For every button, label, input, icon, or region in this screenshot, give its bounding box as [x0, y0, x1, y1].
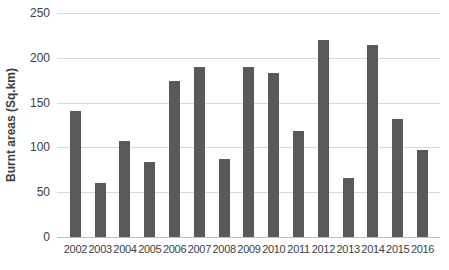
x-tick-label-2005: 2005: [137, 242, 162, 256]
x-tick-label-2003: 2003: [88, 242, 113, 256]
y-tick-label-250: 250: [0, 6, 50, 20]
y-tick-label-0: 0: [0, 230, 50, 244]
bar-slot-2012: [311, 13, 336, 237]
bar-2007: [194, 67, 205, 237]
x-tick-label-2014: 2014: [361, 242, 386, 256]
bar-2003: [95, 183, 106, 237]
bar-slot-2006: [162, 13, 187, 237]
bar-slot-2008: [212, 13, 237, 237]
bar-2005: [144, 162, 155, 237]
plot-area: [57, 13, 440, 237]
x-tick-label-2012: 2012: [311, 242, 336, 256]
bar-slot-2013: [336, 13, 361, 237]
bar-slot-2010: [261, 13, 286, 237]
bar-2008: [219, 159, 230, 237]
bar-2006: [169, 81, 180, 237]
bar-2010: [268, 73, 279, 237]
y-tick-label-100: 100: [0, 140, 50, 154]
bar-2014: [367, 45, 378, 237]
bar-slot-2003: [88, 13, 113, 237]
bar-2002: [70, 111, 81, 237]
x-tick-label-2015: 2015: [385, 242, 410, 256]
x-tick-label-2016: 2016: [410, 242, 435, 256]
bar-slot-2014: [361, 13, 386, 237]
y-axis-tick-labels: 050100150200250: [0, 0, 50, 270]
bar-slot-2004: [113, 13, 138, 237]
bar-2009: [243, 67, 254, 237]
x-axis-tick-labels: 2002200320042005200620072008200920102011…: [63, 242, 435, 256]
x-tick-label-2004: 2004: [113, 242, 138, 256]
bar-2004: [119, 141, 130, 237]
x-tick-label-2013: 2013: [336, 242, 361, 256]
bars-container: [63, 13, 435, 237]
x-tick-label-2011: 2011: [286, 242, 311, 256]
bar-2016: [417, 150, 428, 237]
x-tick-label-2006: 2006: [162, 242, 187, 256]
bar-slot-2005: [137, 13, 162, 237]
bar-slot-2011: [286, 13, 311, 237]
x-tick-label-2009: 2009: [237, 242, 262, 256]
x-tick-label-2008: 2008: [212, 242, 237, 256]
y-tick-label-150: 150: [0, 96, 50, 110]
bar-slot-2007: [187, 13, 212, 237]
x-axis-line: [57, 237, 440, 238]
bar-slot-2016: [410, 13, 435, 237]
bar-2015: [392, 119, 403, 237]
x-tick-label-2010: 2010: [261, 242, 286, 256]
x-tick-label-2002: 2002: [63, 242, 88, 256]
bar-2012: [318, 40, 329, 237]
x-tick-label-2007: 2007: [187, 242, 212, 256]
bar-slot-2009: [237, 13, 262, 237]
bar-chart-figure: Burnt areas (Sq.km) 050100150200250 2002…: [0, 0, 449, 270]
bar-slot-2015: [385, 13, 410, 237]
y-tick-label-200: 200: [0, 51, 50, 65]
bar-2011: [293, 131, 304, 237]
y-tick-label-50: 50: [0, 185, 50, 199]
bar-2013: [343, 178, 354, 237]
bar-slot-2002: [63, 13, 88, 237]
